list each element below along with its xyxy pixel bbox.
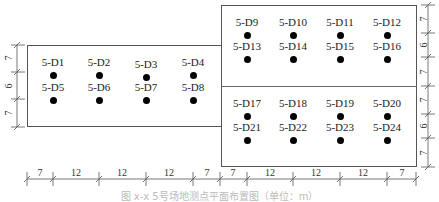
point-label: 5-D7	[135, 82, 158, 93]
point-label: 5-D11	[326, 17, 354, 28]
point-label: 5-D24	[373, 122, 401, 133]
point-marker-icon	[337, 137, 344, 144]
dim-label-left-2: 6	[4, 84, 14, 89]
dim-label-h-5: 7	[205, 168, 210, 178]
point-label: 5-D5	[42, 82, 65, 93]
point-marker-icon	[244, 113, 251, 120]
point-label: 5-D19	[326, 98, 354, 109]
point-marker-icon	[337, 113, 344, 120]
point-marker-icon	[190, 97, 197, 104]
dim-label-right-6: 7	[419, 151, 429, 156]
point-marker-icon	[384, 56, 391, 63]
dim-label-h-2: 12	[71, 168, 81, 178]
point-label: 5-D2	[88, 57, 111, 68]
point-label: 5-D16	[373, 41, 401, 52]
point-marker-icon	[244, 32, 251, 39]
point-label: 5-D13	[233, 41, 261, 52]
point-label: 5-D20	[373, 98, 401, 109]
point-label: 5-D22	[279, 122, 307, 133]
point-marker-icon	[50, 97, 57, 104]
dim-label-left-1: 7	[4, 56, 14, 61]
dim-label-right-1: 7	[419, 17, 429, 22]
dim-label-h-1: 7	[38, 168, 43, 178]
figure-caption: 图 x-x 5号场地测点平面布置图（单位：m）	[0, 191, 439, 202]
point-marker-icon	[290, 56, 297, 63]
dim-label-h-3: 12	[117, 168, 127, 178]
point-marker-icon	[244, 56, 251, 63]
dim-label-h-4: 12	[164, 168, 174, 178]
point-label: 5-D9	[236, 17, 259, 28]
dim-label-right-5: 6	[419, 124, 429, 129]
dim-label-right-3: 7	[419, 70, 429, 75]
point-marker-icon	[384, 137, 391, 144]
point-label: 5-D18	[279, 98, 307, 109]
dim-label-left-3: 7	[4, 111, 14, 116]
point-marker-icon	[50, 72, 57, 79]
point-label: 5-D12	[373, 17, 401, 28]
point-marker-icon	[244, 137, 251, 144]
point-marker-icon	[290, 113, 297, 120]
dim-label-h-10: 7	[400, 168, 405, 178]
point-marker-icon	[190, 72, 197, 79]
point-label: 5-D21	[233, 122, 261, 133]
point-marker-icon	[96, 72, 103, 79]
point-marker-icon	[337, 32, 344, 39]
point-marker-icon	[384, 32, 391, 39]
point-marker-icon	[290, 137, 297, 144]
point-label: 5-D14	[279, 41, 307, 52]
point-label: 5-D8	[182, 82, 205, 93]
dim-label-right-4: 7	[419, 98, 429, 103]
point-label: 5-D23	[326, 122, 354, 133]
point-marker-icon	[337, 56, 344, 63]
point-label: 5-D10	[279, 17, 307, 28]
point-label: 5-D17	[233, 98, 261, 109]
point-marker-icon	[143, 74, 150, 81]
point-label: 5-D15	[326, 41, 354, 52]
point-label: 5-D1	[42, 57, 65, 68]
point-marker-icon	[290, 32, 297, 39]
dim-label-h-6: 7	[231, 168, 236, 178]
point-label: 5-D4	[182, 57, 205, 68]
point-marker-icon	[143, 97, 150, 104]
point-marker-icon	[96, 97, 103, 104]
dim-label-right-2: 6	[419, 43, 429, 48]
point-label: 5-D3	[135, 59, 158, 70]
dim-label-h-9: 12	[358, 168, 368, 178]
point-marker-icon	[384, 113, 391, 120]
point-label: 5-D6	[88, 82, 111, 93]
dim-label-h-8: 12	[311, 168, 321, 178]
dim-label-h-7: 12	[265, 168, 275, 178]
